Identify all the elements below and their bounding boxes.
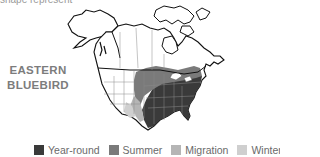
year-round-swatch: [34, 145, 44, 155]
winter-swatch: [237, 145, 247, 155]
legend-item-winter: Winter: [237, 144, 280, 156]
legend-item-summer: Summer: [109, 144, 163, 156]
legend-label: Migration: [185, 144, 228, 156]
legend-label: Year-round: [48, 144, 100, 156]
legend-label: Summer: [123, 144, 163, 156]
summer-swatch: [109, 145, 119, 155]
range-map: [60, 2, 260, 137]
legend-label: Winter: [251, 144, 280, 156]
migration-swatch: [171, 145, 181, 155]
legend: Year-round Summer Migration Winter: [34, 144, 280, 156]
legend-item-migration: Migration: [171, 144, 228, 156]
legend-item-year-round: Year-round: [34, 144, 100, 156]
